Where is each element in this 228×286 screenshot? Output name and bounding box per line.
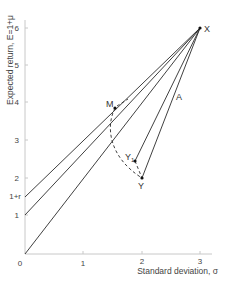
y-axis-label: Expected return, E=1+μ <box>5 15 15 105</box>
y-tick-2: 2 <box>15 174 20 183</box>
y-tick-5: 5 <box>15 61 20 70</box>
label-M: M <box>106 99 114 109</box>
x-axis-label: Standard deviation, σ <box>137 266 219 276</box>
point-Y <box>140 176 143 179</box>
point-X <box>198 26 201 29</box>
label-Y1: Y1 <box>125 152 135 163</box>
point-M <box>113 106 116 109</box>
label-X: X <box>204 24 210 34</box>
line-Y-to-X <box>142 28 200 178</box>
M-arrow-segment <box>117 99 128 106</box>
y-tick-3: 3 <box>15 136 20 145</box>
x-tick-2: 2 <box>140 257 145 266</box>
line-from-1-plus-r <box>25 28 200 197</box>
x-tick-1: 1 <box>81 259 86 268</box>
x-tick-0: 0 <box>18 259 23 268</box>
y-tick-4: 4 <box>15 98 20 107</box>
y-tick-6: 6 <box>15 24 20 33</box>
x-tick-3: 3 <box>198 257 203 266</box>
y-tick-1: 1 <box>15 211 20 220</box>
line-from-1 <box>25 28 200 215</box>
label-A: A <box>176 92 182 102</box>
portfolio-diagram: 1 2 3 4 5 6 1+r 0 1 2 3 Standard deviati… <box>0 0 228 286</box>
y-tick-1-plus-r: 1+r <box>9 192 21 201</box>
label-Y: Y <box>138 181 144 191</box>
line-Y1-to-X <box>135 28 200 161</box>
